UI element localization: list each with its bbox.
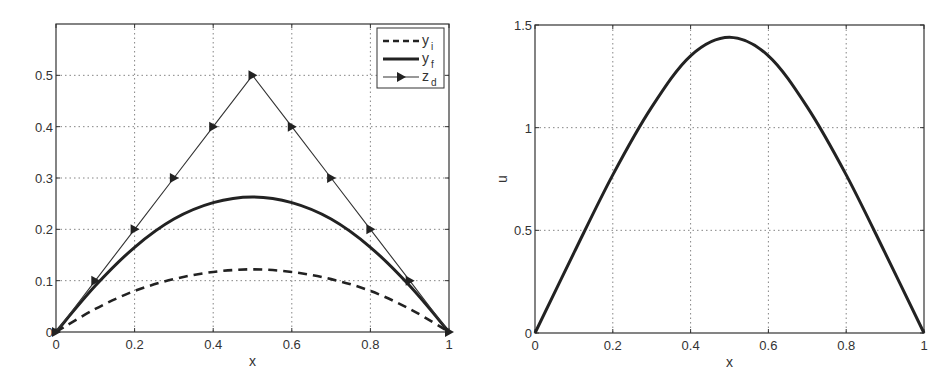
x-axis-label: x bbox=[726, 354, 733, 370]
legend-label: y bbox=[422, 50, 429, 66]
figure: 00.20.40.60.8100.10.20.30.40.5xyiyfzd 00… bbox=[0, 0, 952, 382]
axes-frame bbox=[535, 25, 924, 333]
triangle-marker-icon bbox=[366, 224, 375, 234]
series-z-d bbox=[52, 70, 454, 337]
x-tick-label: 0 bbox=[531, 338, 538, 353]
y-tick-label: 0.1 bbox=[35, 274, 53, 289]
triangle-marker-icon bbox=[131, 224, 140, 234]
x-tick-label: 1 bbox=[920, 338, 927, 353]
y-tick-label: 0 bbox=[525, 326, 532, 341]
x-tick-label: 0.4 bbox=[682, 338, 700, 353]
y-tick-label: 1 bbox=[525, 121, 532, 136]
legend-subscript: f bbox=[431, 59, 434, 70]
x-tick-label: 0.2 bbox=[604, 338, 622, 353]
x-tick-label: 0.8 bbox=[361, 337, 379, 352]
x-tick-label: 0 bbox=[52, 337, 59, 352]
x-tick-label: 1 bbox=[445, 337, 452, 352]
x-tick-label: 0.8 bbox=[837, 338, 855, 353]
right-plot: 00.20.40.60.8100.511.5xu bbox=[494, 18, 928, 370]
y-tick-label: 0.4 bbox=[35, 120, 53, 135]
x-tick-label: 0.4 bbox=[204, 337, 222, 352]
y-axis-label: u bbox=[494, 175, 510, 183]
x-tick-label: 0.2 bbox=[126, 337, 144, 352]
legend-label: y bbox=[422, 32, 429, 48]
legend-subscript: d bbox=[431, 77, 437, 88]
triangle-marker-icon bbox=[327, 173, 336, 183]
series-y-f bbox=[56, 197, 449, 332]
grid bbox=[535, 25, 924, 333]
x-tick-label: 0.6 bbox=[283, 337, 301, 352]
series-u bbox=[535, 37, 924, 333]
y-tick-label: 1.5 bbox=[514, 18, 532, 33]
triangle-marker-icon bbox=[170, 173, 179, 183]
y-tick-label: 0.5 bbox=[35, 68, 53, 83]
legend-label: z bbox=[422, 68, 429, 84]
y-tick-label: 0.5 bbox=[514, 223, 532, 238]
triangle-marker-icon bbox=[209, 122, 218, 132]
y-tick-label: 0.2 bbox=[35, 222, 53, 237]
legend: yiyfzd bbox=[377, 28, 444, 88]
triangle-marker-icon bbox=[288, 122, 297, 132]
x-axis-label: x bbox=[249, 353, 256, 369]
triangle-marker-icon bbox=[249, 70, 258, 80]
legend-subscript: i bbox=[431, 41, 433, 52]
x-tick-label: 0.6 bbox=[759, 338, 777, 353]
axes: 00.20.40.60.8100.511.5 bbox=[514, 18, 928, 353]
left-plot: 00.20.40.60.8100.10.20.30.40.5xyiyfzd bbox=[35, 24, 454, 369]
y-tick-label: 0 bbox=[46, 325, 53, 340]
y-tick-label: 0.3 bbox=[35, 171, 53, 186]
series-y-i bbox=[56, 269, 449, 332]
